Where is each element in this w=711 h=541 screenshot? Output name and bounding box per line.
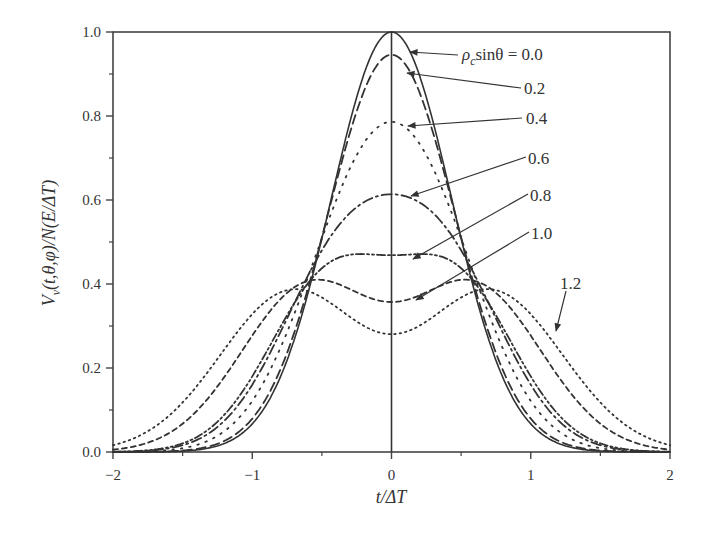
annotation-arrow	[416, 232, 529, 300]
annotation-label: ρcsinθ = 0.0	[461, 45, 543, 68]
annotation-arrow	[407, 73, 521, 88]
y-axis-title: Vv(t,θ,φ)/N(E/ΔT)	[39, 180, 63, 307]
plot-frame	[113, 32, 670, 452]
annotation-label: 1.2	[560, 274, 581, 293]
annotation-arrow	[413, 194, 528, 259]
y-tick-label: 0.0	[82, 444, 101, 460]
y-tick-label: 0.4	[82, 276, 101, 292]
chart: −2−10120.00.20.40.60.81.0 ρcsinθ = 0.00.…	[0, 0, 711, 541]
x-tick-label: 0	[388, 467, 396, 483]
y-tick-label: 0.8	[82, 108, 101, 124]
annotation-label: 0.6	[528, 149, 549, 168]
x-tick-label: 1	[527, 467, 535, 483]
annotation-arrow	[556, 291, 566, 331]
y-tick-label: 0.2	[82, 360, 101, 376]
annotation-label: 0.4	[526, 109, 548, 128]
annotation-label: 0.2	[524, 79, 545, 98]
x-axis-title: t/ΔT	[376, 487, 409, 507]
annotation-label: 1.0	[531, 224, 552, 243]
x-tick-label: −1	[244, 467, 260, 483]
annotation-arrow	[410, 52, 458, 55]
x-tick-label: 2	[666, 467, 674, 483]
y-tick-label: 0.6	[82, 192, 101, 208]
annotation-label: 0.8	[530, 186, 551, 205]
y-tick-label: 1.0	[82, 24, 101, 40]
annotation-arrow	[411, 157, 526, 196]
x-tick-label: −2	[105, 467, 121, 483]
annotation-arrow	[408, 118, 522, 126]
